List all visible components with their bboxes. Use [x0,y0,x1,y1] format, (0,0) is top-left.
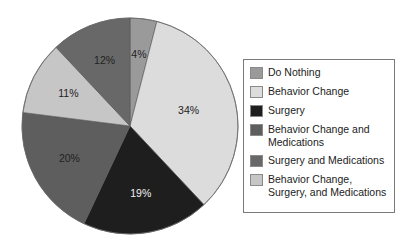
legend-swatch [250,174,263,186]
legend-item-behavior-change-surgery-and-medications: Behavior Change, Surgery, and Medication… [250,173,390,198]
slice-value-label: 34% [178,104,199,116]
legend-item-behavior-change-and-medications: Behavior Change and Medications [250,123,390,148]
slice-value-label: 11% [58,87,78,99]
legend-swatch [250,105,263,117]
pie-chart: 4%34%19%20%11%12% [0,0,242,243]
legend-item-surgery-and-medications: Surgery and Medications [250,154,390,167]
legend-label: Surgery and Medications [268,154,384,167]
legend-swatch [250,124,263,136]
legend-swatch [250,86,263,98]
chart-legend: Do Nothing Behavior Change Surgery Behav… [243,59,395,213]
legend-item-surgery: Surgery [250,104,390,117]
legend-label: Behavior Change and Medications [268,123,390,148]
legend-label: Surgery [268,104,305,117]
legend-item-do-nothing: Do Nothing [250,66,390,79]
slice-value-label: 19% [130,187,151,199]
slice-value-label: 20% [59,152,80,164]
legend-label: Do Nothing [268,66,321,79]
legend-swatch [250,155,263,167]
legend-label: Behavior Change [268,85,349,98]
slice-value-label: 12% [94,54,115,66]
slice-value-label: 4% [131,48,146,60]
legend-item-behavior-change: Behavior Change [250,85,390,98]
legend-label: Behavior Change, Surgery, and Medication… [268,173,390,198]
legend-swatch [250,67,263,79]
